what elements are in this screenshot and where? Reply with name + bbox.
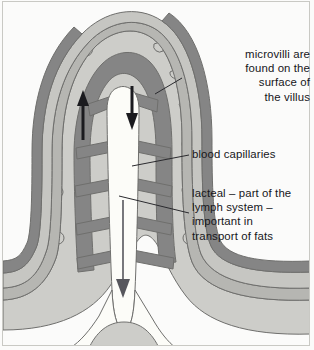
label-blood-capillaries: blood capillaries xyxy=(192,147,312,161)
label-microvilli: microvilli are found on the surface of t… xyxy=(186,47,310,104)
villus-diagram-figure: microvilli are found on the surface of t… xyxy=(0,0,314,350)
label-lacteal: lacteal – part of the lymph system – imp… xyxy=(192,186,314,243)
